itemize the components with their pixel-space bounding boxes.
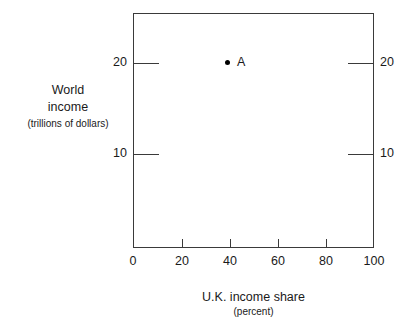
x-tick-label-80: 80 <box>306 255 346 268</box>
y-axis-title-line1: World <box>8 82 128 99</box>
data-point-a <box>225 60 230 65</box>
y-tick-label-right-20: 20 <box>380 56 410 69</box>
y-tick-right-20 <box>348 63 374 64</box>
x-tick-40 <box>230 239 231 248</box>
y-axis-title: World income (trillions of dollars) <box>8 82 128 131</box>
y-axis-title-units: (trillions of dollars) <box>8 116 128 131</box>
y-tick-label-right-10: 10 <box>380 147 410 160</box>
y-tick-right-10 <box>348 154 374 155</box>
y-tick-label-left-20: 20 <box>99 56 127 69</box>
plot-area <box>133 13 374 248</box>
x-axis-title-units: (percent) <box>133 305 374 319</box>
y-tick-left-10 <box>133 154 159 155</box>
x-axis-title: U.K. income share (percent) <box>133 289 374 319</box>
x-tick-label-20: 20 <box>162 255 202 268</box>
x-tick-20 <box>182 239 183 248</box>
x-tick-label-40: 40 <box>210 255 250 268</box>
x-tick-label-100: 100 <box>354 255 394 268</box>
x-tick-60 <box>278 239 279 248</box>
y-tick-label-left-10: 10 <box>99 147 127 160</box>
chart-figure: 20 10 20 10 0 20 40 60 80 100 World inco… <box>0 0 411 332</box>
x-tick-80 <box>326 239 327 248</box>
x-axis-title-main: U.K. income share <box>133 289 374 305</box>
x-tick-label-0: 0 <box>113 255 153 268</box>
x-tick-label-60: 60 <box>258 255 298 268</box>
data-point-a-label: A <box>237 56 245 69</box>
y-axis-title-line2: income <box>8 99 128 116</box>
y-tick-left-20 <box>133 63 159 64</box>
